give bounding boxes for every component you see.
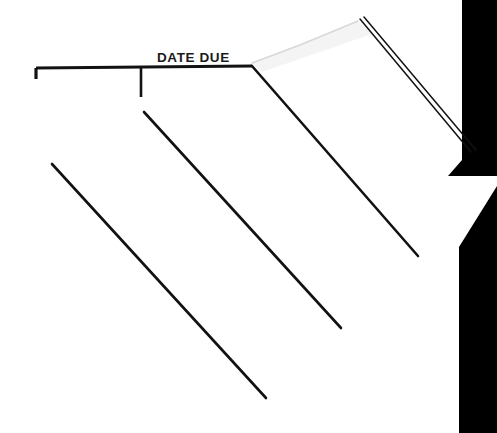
scanned-page: DATE DUE — [0, 0, 497, 433]
top-horizontal-rule — [36, 66, 252, 68]
scan-canvas: DATE DUE — [0, 0, 497, 433]
page-title: DATE DUE — [157, 50, 230, 65]
